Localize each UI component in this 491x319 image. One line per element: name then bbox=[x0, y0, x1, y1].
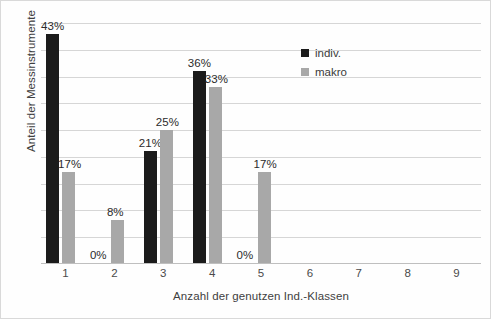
legend-item-makro[interactable]: makro bbox=[301, 62, 411, 81]
x-axis-title: Anzahl der genutzen Ind.-Klassen bbox=[41, 290, 481, 302]
x-tick-4: 4 bbox=[192, 267, 232, 279]
bar-group: 0%17% bbox=[237, 23, 286, 263]
bar-makro-4 bbox=[209, 87, 222, 263]
bar-group: 36%33% bbox=[188, 23, 237, 263]
bar-indiv-3 bbox=[144, 151, 157, 263]
x-tick-9: 9 bbox=[437, 267, 477, 279]
bar-value-label: 0% bbox=[237, 249, 254, 261]
bar-group bbox=[432, 23, 481, 263]
bars-layer: 43%17%0%8%21%25%36%33%0%17% bbox=[41, 23, 481, 263]
bar-value-label: 0% bbox=[90, 249, 107, 261]
legend: indiv.makro bbox=[301, 43, 411, 81]
bar-value-label: 17% bbox=[58, 158, 81, 170]
x-tick-3: 3 bbox=[143, 267, 183, 279]
bar-makro-2 bbox=[111, 220, 124, 263]
x-tick-6: 6 bbox=[290, 267, 330, 279]
x-axis-tick-labels: 123456789 bbox=[41, 267, 481, 285]
bar-makro-3 bbox=[160, 130, 173, 263]
x-tick-8: 8 bbox=[388, 267, 428, 279]
bar-value-label: 8% bbox=[107, 206, 124, 218]
x-tick-1: 1 bbox=[45, 267, 85, 279]
legend-item-indiv[interactable]: indiv. bbox=[301, 43, 411, 62]
bar-value-label: 25% bbox=[156, 116, 179, 128]
bar-group: 21%25% bbox=[139, 23, 188, 263]
bar-group: 43%17% bbox=[41, 23, 90, 263]
x-tick-5: 5 bbox=[241, 267, 281, 279]
bar-makro-5 bbox=[258, 172, 271, 263]
bar-makro-1 bbox=[62, 172, 75, 263]
bar-indiv-1 bbox=[46, 34, 59, 263]
legend-swatch-icon bbox=[301, 49, 309, 57]
bar-value-label: 36% bbox=[188, 57, 211, 69]
x-tick-7: 7 bbox=[339, 267, 379, 279]
bar-value-label: 17% bbox=[254, 158, 277, 170]
bar-value-label: 33% bbox=[205, 73, 228, 85]
bar-value-label: 21% bbox=[139, 137, 162, 149]
legend-label: makro bbox=[315, 66, 347, 78]
bar-chart: Anteil der Messinstrumente 43%17%0%8%21%… bbox=[0, 0, 491, 319]
bar-indiv-4 bbox=[193, 71, 206, 263]
bar-value-label: 43% bbox=[41, 20, 64, 32]
legend-label: indiv. bbox=[315, 47, 341, 59]
x-axis-line bbox=[41, 263, 481, 264]
legend-swatch-icon bbox=[301, 68, 309, 76]
x-tick-2: 2 bbox=[94, 267, 134, 279]
y-axis-title: Anteil der Messinstrumente bbox=[21, 0, 41, 191]
plot-area: 43%17%0%8%21%25%36%33%0%17% bbox=[41, 23, 481, 264]
bar-group: 0%8% bbox=[90, 23, 139, 263]
